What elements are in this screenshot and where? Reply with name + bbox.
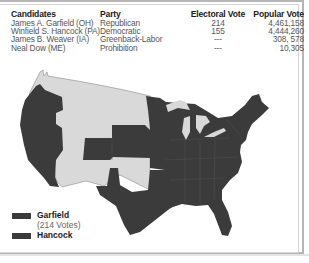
election-results-table: Candidates Party Electoral Vote Popular …: [11, 10, 304, 52]
frame-shadow: [0, 254, 309, 256]
legend-item-hancock: Hancock: [12, 231, 80, 241]
map-legend: Garfield (214 Votes) Hancock: [12, 211, 80, 241]
table-row: Neal Dow (ME) Prohibition --- 10,305: [11, 44, 304, 52]
popular-vote: 10,305: [248, 44, 304, 52]
legend-swatch-hancock: [12, 233, 31, 239]
candidate-name: Neal Dow (ME): [11, 44, 100, 52]
legend-swatch-garfield: [12, 213, 31, 219]
electoral-vote: ---: [188, 44, 248, 52]
map-state-east: [146, 94, 269, 236]
party-name: Prohibition: [100, 44, 188, 52]
legend-label-hancock: Hancock: [37, 231, 72, 241]
